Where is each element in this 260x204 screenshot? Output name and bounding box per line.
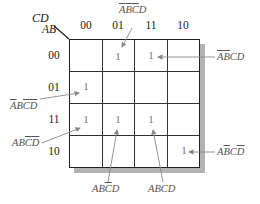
term-label-ab'cd': ABCD	[217, 146, 244, 157]
term-label-a'b'c'd: ABCD	[119, 4, 146, 15]
term-label-a'bc'd': ABCD	[10, 100, 37, 111]
term-label-abc'd': ABCD	[12, 137, 39, 148]
term-label-abcd: ABCD	[148, 183, 175, 194]
annotation-arrows	[0, 0, 260, 204]
term-label-abc'd: ABCD	[92, 183, 119, 194]
term-label-a'b'cd: ABCD	[217, 51, 244, 62]
